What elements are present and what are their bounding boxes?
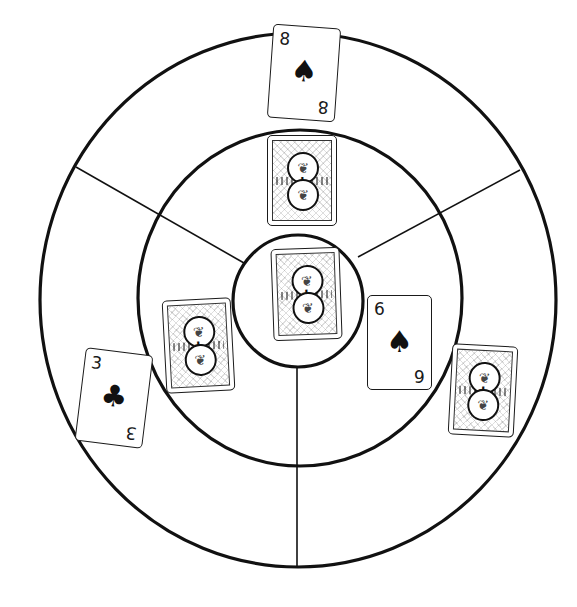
- divider-top-left: [76, 167, 244, 263]
- spade-icon: ♠: [270, 54, 338, 89]
- divider-top-right: [358, 170, 520, 257]
- card-back-right[interactable]: ❦ ✚ ❦: [448, 343, 519, 437]
- card-three-of-clubs[interactable]: 3 ♣ 3: [75, 347, 154, 449]
- card-rank: 3: [125, 424, 138, 442]
- card-rank: 6: [414, 367, 425, 384]
- card-rank: 3: [90, 354, 103, 372]
- card-back-pattern: ❦ ✚ ❦: [167, 303, 230, 389]
- medallion-icon: ❦: [291, 292, 324, 325]
- card-rank: 8: [317, 98, 329, 116]
- card-rank: 8: [279, 30, 291, 48]
- spade-icon: ♠: [368, 326, 431, 356]
- card-back-top[interactable]: ❦ ✚ ❦: [267, 135, 337, 226]
- card-back-pattern: ❦ ✚ ❦: [453, 349, 513, 433]
- card-back-left[interactable]: ❦ ✚ ❦: [162, 297, 236, 393]
- card-rank: 6: [374, 301, 385, 318]
- card-back-center[interactable]: ❦ ✚ ❦: [270, 247, 342, 341]
- medallion-icon: ❦: [287, 179, 319, 211]
- card-six-of-spades[interactable]: 6 ♠ 6: [367, 295, 432, 390]
- medallion-icon: ❦: [183, 343, 217, 377]
- card-eight-of-spades[interactable]: 8 ♠ 8: [267, 24, 341, 123]
- card-back-pattern: ❦ ✚ ❦: [276, 252, 338, 336]
- club-icon: ♣: [80, 378, 149, 416]
- card-back-pattern: ❦ ✚ ❦: [272, 140, 332, 221]
